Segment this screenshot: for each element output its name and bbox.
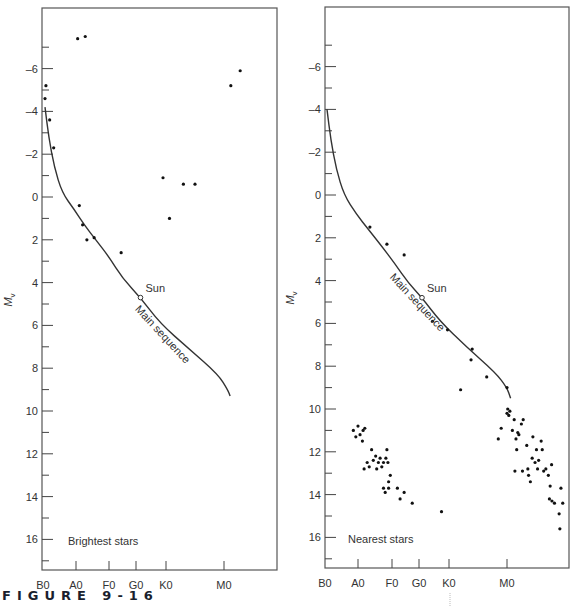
y-tick-label: 10	[26, 405, 38, 417]
y-tick-label: 16	[309, 531, 321, 543]
star-point	[507, 414, 510, 417]
sun-marker	[138, 295, 143, 300]
star-point	[505, 386, 508, 389]
plot-frame	[325, 7, 569, 568]
star-point	[43, 97, 46, 100]
star-point	[384, 457, 387, 460]
star-point	[387, 487, 390, 490]
sun-label: Sun	[146, 282, 166, 294]
star-point	[389, 474, 392, 477]
y-axis-label: Mv	[2, 293, 17, 306]
panel-label: Brightest stars	[68, 535, 139, 547]
star-point	[522, 418, 525, 421]
y-tick-label: 0	[32, 191, 38, 203]
main-sequence-label: Main sequence	[388, 271, 448, 334]
star-point	[561, 502, 564, 505]
star-point	[440, 510, 443, 513]
star-point	[384, 491, 387, 494]
star-point	[85, 238, 88, 241]
star-point	[550, 463, 553, 466]
star-point	[372, 459, 375, 462]
star-point	[541, 448, 544, 451]
star-point	[529, 480, 532, 483]
star-point	[375, 467, 378, 470]
main-sequence-curve	[45, 107, 230, 396]
y-tick-label: 16	[26, 533, 38, 545]
star-point	[403, 253, 406, 256]
y-tick-label: 4	[32, 277, 38, 289]
panel-label: Nearest stars	[348, 533, 414, 545]
main-sequence-label: Main sequence	[133, 303, 193, 366]
y-tick-label: –6	[26, 63, 38, 75]
star-point	[526, 467, 529, 470]
star-point	[544, 467, 547, 470]
star-point	[370, 448, 373, 451]
star-point	[517, 433, 520, 436]
star-point	[385, 243, 388, 246]
x-tick-label-m0: M0	[216, 579, 231, 591]
y-tick-label: 12	[309, 446, 321, 458]
star-point	[515, 448, 518, 451]
star-point	[500, 427, 503, 430]
star-point	[459, 388, 462, 391]
x-tick-label-b0: B0	[318, 577, 331, 589]
x-tick-label-g0: G0	[412, 577, 427, 589]
star-point	[403, 491, 406, 494]
figure-caption: FIGURE 9-16	[2, 588, 159, 603]
star-point	[531, 435, 534, 438]
star-point	[84, 35, 87, 38]
star-point	[411, 502, 414, 505]
star-point	[78, 204, 81, 207]
star-point	[44, 84, 47, 87]
x-tick-label-k0: K0	[442, 577, 455, 589]
star-point	[513, 418, 516, 421]
star-point	[358, 433, 361, 436]
star-point	[363, 467, 366, 470]
star-point	[239, 69, 242, 72]
star-point	[382, 487, 385, 490]
x-tick-label-f0: F0	[386, 577, 399, 589]
star-point	[374, 454, 377, 457]
y-tick-label: 14	[26, 491, 38, 503]
star-point	[396, 487, 399, 490]
star-point	[511, 429, 514, 432]
star-point	[52, 146, 55, 149]
star-point	[548, 497, 551, 500]
y-tick-label: 8	[32, 362, 38, 374]
y-tick-label: 8	[315, 360, 321, 372]
x-tick-label-m0: M0	[499, 577, 514, 589]
star-point	[535, 448, 538, 451]
star-point	[168, 217, 171, 220]
star-point	[356, 425, 359, 428]
star-point	[399, 497, 402, 500]
star-point	[379, 457, 382, 460]
star-point	[540, 440, 543, 443]
star-point	[368, 465, 371, 468]
star-point	[366, 461, 369, 464]
star-point	[386, 461, 389, 464]
star-point	[352, 429, 355, 432]
y-tick-label: –2	[26, 148, 38, 160]
sun-label: Sun	[427, 282, 447, 294]
star-point	[527, 474, 530, 477]
star-point	[193, 183, 196, 186]
star-point	[363, 427, 366, 430]
star-point	[76, 37, 79, 40]
star-point	[81, 223, 84, 226]
star-point	[531, 457, 534, 460]
y-tick-label: 10	[309, 403, 321, 415]
star-point	[508, 410, 511, 413]
y-tick-label: –4	[309, 103, 321, 115]
star-point	[553, 502, 556, 505]
star-point	[559, 487, 562, 490]
y-tick-label: 14	[309, 489, 321, 501]
star-point	[354, 435, 357, 438]
star-point	[368, 226, 371, 229]
star-point	[558, 527, 561, 530]
star-point	[513, 469, 516, 472]
star-point	[514, 437, 517, 440]
star-point	[385, 448, 388, 451]
star-point	[497, 437, 500, 440]
x-tick-label-a0: A0	[351, 577, 364, 589]
star-point	[48, 118, 51, 121]
